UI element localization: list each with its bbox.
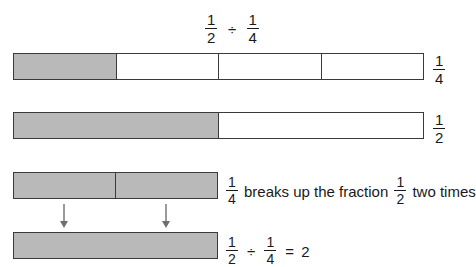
bar-row-1-segment-1: [14, 54, 117, 79]
bar-row-3-segment-1: [14, 173, 116, 198]
arrow-head-1: [60, 221, 68, 228]
caption-row-4-fraction-one-fourth: 1 4: [264, 235, 276, 266]
bar-row-3: [13, 172, 218, 199]
bar-row-2-segment-2: [219, 113, 423, 138]
caption-row-4-fraction-one-half: 1 2: [226, 235, 238, 266]
bar-row-1-segment-3: [219, 54, 322, 79]
caption-row-3-text-end: two times: [412, 183, 475, 200]
title-fraction-one-fourth: 1 4: [247, 12, 259, 45]
bar-row-1: [13, 53, 424, 80]
caption-row-4-division-operator: ÷: [247, 244, 255, 259]
bar-row-2-label-numerator: 1: [433, 112, 445, 129]
caption-row-4: 1 2 ÷ 1 4 = 2: [224, 236, 310, 267]
title-fraction-one-fourth-denominator: 4: [247, 29, 259, 45]
title-fraction-one-half-numerator: 1: [205, 12, 217, 29]
arrow-head-2: [162, 221, 170, 228]
bar-row-2-segment-1: [14, 113, 219, 138]
caption-row-3-fraction-b-denominator: 2: [394, 191, 406, 206]
bar-row-1-segment-2: [117, 54, 220, 79]
title-division-operator: ÷: [228, 22, 236, 37]
bar-row-1-label: 1 4: [431, 54, 447, 87]
title-expression: 1 2 ÷ 1 4: [0, 13, 464, 46]
title-fraction-one-half: 1 2: [205, 12, 217, 45]
caption-row-4-fraction-a-denominator: 2: [226, 251, 238, 266]
bar-row-1-label-numerator: 1: [433, 53, 445, 70]
bar-row-2-label: 1 2: [431, 113, 447, 146]
caption-row-3-fraction-a-numerator: 1: [226, 175, 238, 191]
arrow-layer: [60, 204, 170, 228]
caption-row-3-text-middle: breaks up the fraction: [244, 183, 388, 200]
title-fraction-one-half-denominator: 2: [205, 29, 217, 45]
bar-row-4-segment-1: [14, 233, 217, 258]
bar-row-1-segment-4: [322, 54, 424, 79]
caption-row-4-fraction-b-denominator: 4: [264, 251, 276, 266]
caption-row-4-fraction-a-numerator: 1: [226, 235, 238, 251]
caption-row-3-fraction-one-fourth: 1 4: [226, 175, 238, 206]
bar-row-4: [13, 232, 218, 259]
caption-row-4-fraction-b-numerator: 1: [264, 235, 276, 251]
caption-row-3-fraction-one-half: 1 2: [394, 175, 406, 206]
caption-row-4-result: 2: [301, 243, 309, 260]
bar-row-3-segment-2: [116, 173, 217, 198]
bar-row-2-label-fraction: 1 2: [433, 112, 445, 145]
caption-row-3-fraction-b-numerator: 1: [394, 175, 406, 191]
bar-row-2-label-denominator: 2: [433, 129, 445, 145]
bar-row-2: [13, 112, 424, 139]
title-fraction-one-fourth-numerator: 1: [247, 12, 259, 29]
bar-row-1-label-denominator: 4: [433, 70, 445, 86]
caption-row-3: 1 4 breaks up the fraction 1 2 two times: [224, 176, 476, 207]
caption-row-4-equals-sign: =: [285, 244, 294, 259]
bar-row-1-label-fraction: 1 4: [433, 53, 445, 86]
caption-row-3-fraction-a-denominator: 4: [226, 191, 238, 206]
